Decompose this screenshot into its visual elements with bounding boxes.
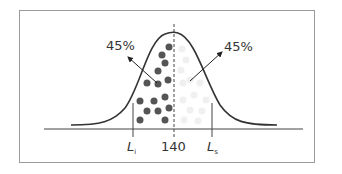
upper-limit-label: Ls	[207, 140, 218, 156]
right-percent-label: 45%	[224, 40, 253, 53]
left-percent-label: 45%	[106, 39, 135, 52]
center-value-label: 140	[161, 140, 186, 153]
dark-dots	[137, 44, 173, 124]
light-dots	[178, 46, 210, 125]
lower-limit-label: Li	[127, 140, 136, 156]
left-arrow	[128, 57, 157, 83]
